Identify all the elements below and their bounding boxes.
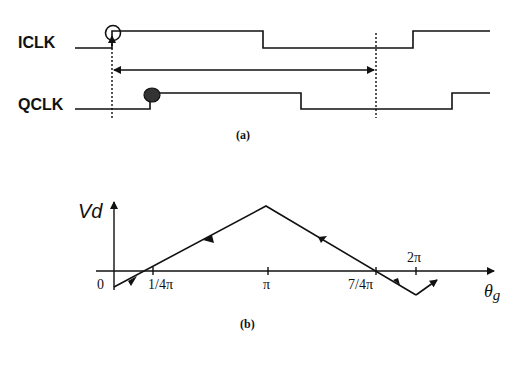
panel-b-phase-detector: Vd θg 0 1/4π π 7/4π 2π (b): [78, 200, 501, 331]
iclk-label: ICLK: [18, 34, 56, 51]
qclk-waveform: [75, 93, 490, 109]
x-axis-label: θg: [484, 281, 501, 303]
tick-label-seven-quarter-pi: 7/4π: [348, 277, 373, 292]
iclk-waveform: [75, 31, 490, 48]
tick-label-pi: π: [263, 277, 270, 292]
timing-and-phase-diagram: ICLK QCLK (a) Vd θg 0 1/4π π 7/4π 2π: [0, 0, 525, 367]
caption-b: (b): [240, 317, 255, 331]
iclk-edge-open-circle-icon: [106, 26, 121, 41]
curve-end-arrow: [416, 280, 437, 295]
qclk-edge-filled-circle-icon: [144, 88, 160, 102]
y-axis-label: Vd: [78, 200, 103, 222]
caption-a: (a): [236, 128, 250, 142]
panel-a-timing: ICLK QCLK (a): [18, 26, 490, 143]
qclk-label: QCLK: [18, 96, 64, 113]
tick-label-quarter-pi: 1/4π: [148, 277, 173, 292]
tick-label-two-pi: 2π: [407, 250, 421, 265]
origin-label: 0: [97, 277, 104, 292]
